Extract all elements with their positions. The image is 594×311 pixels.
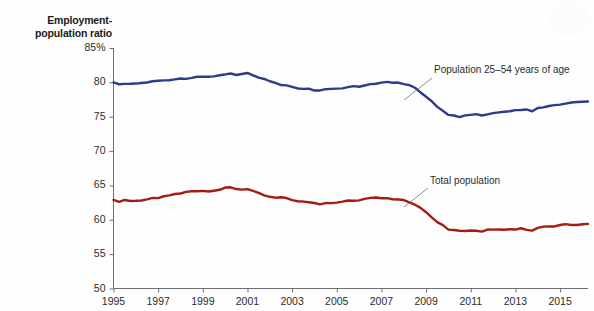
x-tick-marks [114,289,561,293]
x-tick-label: 2003 [269,296,315,307]
x-tick-label: 1995 [91,296,137,307]
y-tick-label: 85% [66,42,106,53]
y-tick-marks [110,49,114,290]
y-tick-label: 55 [66,248,106,259]
y-tick-label: 60 [66,214,106,225]
y-tick-label: 70 [66,145,106,156]
x-tick-label: 2005 [314,296,360,307]
series-annotation-label: Total population [430,175,500,187]
x-tick-label: 1999 [180,296,226,307]
x-tick-label: 2015 [537,296,583,307]
x-tick-label: 2013 [492,296,538,307]
y-tick-label: 50 [66,283,106,294]
x-tick-label: 2001 [224,296,270,307]
y-tick-label: 75 [66,111,106,122]
y-tick-label: 65 [66,179,106,190]
y-tick-label: 80 [66,76,106,87]
axis-lines [114,48,589,289]
series-lines [114,73,589,232]
x-tick-label: 2009 [403,296,449,307]
chart-figure: Employment- population ratio 85%80757065… [0,0,594,311]
x-tick-label: 2007 [358,296,404,307]
x-tick-label: 2011 [448,296,494,307]
x-tick-label: 1997 [135,296,181,307]
series-annotation-label: Population 25–54 years of age [434,64,570,76]
